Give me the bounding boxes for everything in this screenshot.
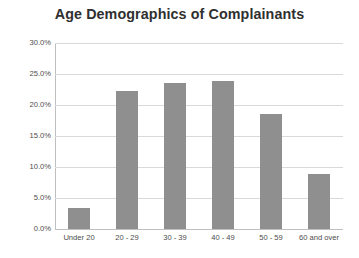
bar	[164, 83, 186, 229]
y-axis-tick-label: 15.0%	[5, 131, 51, 140]
x-axis-tick-labels: Under 2020 - 2930 - 3940 - 4950 - 5960 a…	[55, 233, 343, 251]
y-axis-tick-label: 25.0%	[5, 69, 51, 78]
plot-area	[55, 43, 343, 230]
bar-chart: Age Demographics of Complainants 0.0%5.0…	[0, 0, 359, 258]
bar-series	[55, 43, 343, 230]
x-axis-tick-label: 20 - 29	[115, 233, 139, 242]
y-axis-tick-labels: 0.0%5.0%10.0%15.0%20.0%25.0%30.0%	[0, 0, 51, 258]
bar	[68, 208, 90, 229]
x-axis-tick-label: Under 20	[63, 233, 94, 242]
y-axis-tick-label: 0.0%	[5, 224, 51, 233]
y-axis-tick-label: 5.0%	[5, 193, 51, 202]
chart-title: Age Demographics of Complainants	[0, 6, 359, 22]
bar	[260, 114, 282, 229]
gridline	[55, 229, 343, 230]
bar	[116, 91, 138, 229]
y-axis-tick-label: 10.0%	[5, 162, 51, 171]
y-axis-tick-label: 30.0%	[5, 38, 51, 47]
bar	[212, 81, 234, 230]
x-axis-tick-label: 60 and over	[299, 233, 339, 242]
bar	[308, 174, 330, 229]
x-axis-tick-label: 40 - 49	[211, 233, 235, 242]
y-axis-tick-label: 20.0%	[5, 100, 51, 109]
x-axis-tick-label: 30 - 39	[163, 233, 187, 242]
x-axis-tick-label: 50 - 59	[259, 233, 283, 242]
